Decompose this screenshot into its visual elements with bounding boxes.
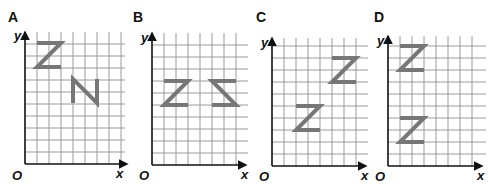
y-axis-label: y bbox=[140, 30, 149, 45]
x-axis-label: x bbox=[240, 167, 249, 182]
y-axis-label: y bbox=[13, 28, 22, 43]
panel-d bbox=[388, 36, 486, 166]
panel-a bbox=[25, 32, 127, 164]
origin-label: O bbox=[12, 168, 22, 183]
y-axis-label: y bbox=[376, 33, 385, 48]
grid bbox=[388, 36, 486, 166]
x-axis-label: x bbox=[360, 168, 369, 183]
grid bbox=[152, 33, 248, 165]
figure-canvas: y x O y x O bbox=[0, 0, 489, 184]
origin-label: O bbox=[139, 168, 149, 183]
x-axis-label: x bbox=[115, 166, 124, 181]
y-axis-label: y bbox=[260, 35, 269, 50]
x-axis-label: x bbox=[476, 168, 485, 183]
panel-b bbox=[152, 33, 248, 165]
origin-label: O bbox=[259, 169, 269, 184]
panel-c bbox=[272, 38, 368, 166]
origin-label: O bbox=[375, 169, 385, 184]
